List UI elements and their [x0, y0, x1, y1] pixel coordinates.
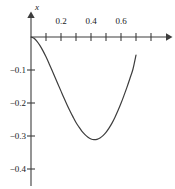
x-tick-label-0.4: 0.4: [79, 16, 103, 26]
y-tick-label--0.4: −0.4: [0, 164, 26, 174]
y-tick-label--0.3: −0.3: [0, 131, 26, 141]
data-curve: [31, 37, 136, 140]
x-axis-arrow-icon: [166, 33, 173, 41]
y-tick-label--0.1: −0.1: [0, 65, 26, 75]
y-tick-label--0.2: −0.2: [0, 98, 26, 108]
chart-figure: x 0.2 0.4 0.6 −0.1 −0.2 −0.3 −0.4: [0, 0, 175, 189]
x-tick-label-0.6: 0.6: [109, 16, 133, 26]
y-axis-arrow-icon: [27, 12, 34, 19]
plot-canvas: [0, 0, 175, 189]
y-axis-label: x: [35, 3, 39, 12]
x-tick-label-0.2: 0.2: [49, 16, 73, 26]
